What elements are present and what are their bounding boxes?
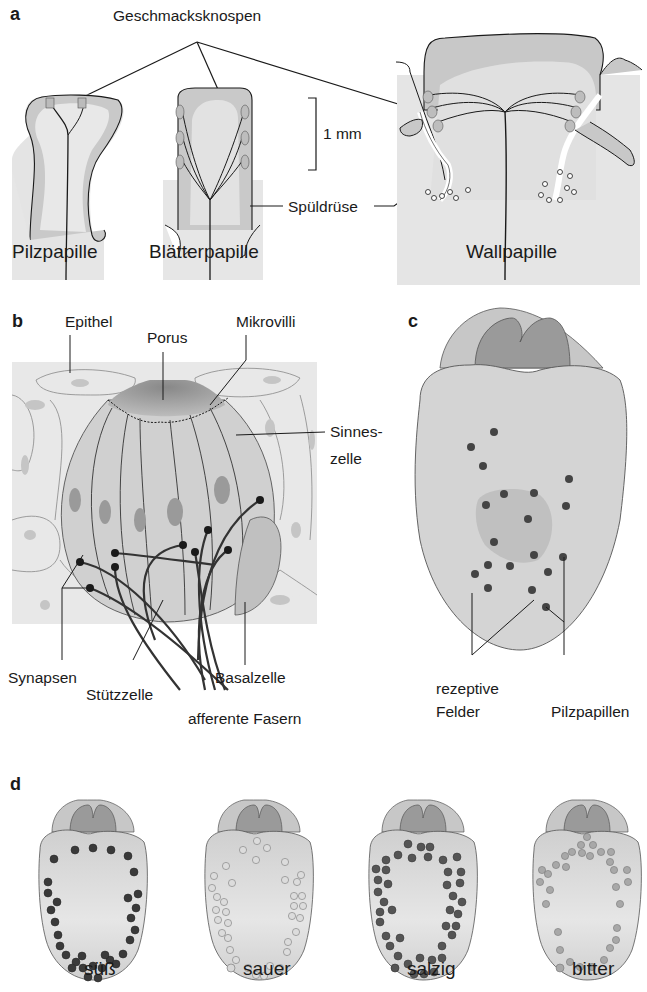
- label-scale: 1 mm: [323, 125, 362, 142]
- panel-d-letter: d: [10, 774, 21, 794]
- legend-dot-icon: [556, 964, 564, 972]
- legend-label-sauer: sauer: [243, 958, 291, 979]
- label-rezeptive: rezeptive: [436, 680, 499, 697]
- label-sinneszelle-2: zelle: [330, 450, 362, 467]
- legend-dot-icon: [391, 964, 399, 972]
- label-pilzpapille: Pilzpapille: [12, 241, 98, 262]
- label-wallpapille: Wallpapille: [466, 241, 557, 262]
- label-epithel: Epithel: [65, 313, 112, 330]
- label-sinneszelle-1: Sinnes-: [330, 423, 383, 440]
- label-afferente-fasern: afferente Fasern: [188, 710, 301, 727]
- panel-d: d: [10, 774, 641, 982]
- label-spueldruese: Spüldrüse: [288, 198, 358, 215]
- label-pilzpapillen: Pilzpapillen: [551, 703, 629, 720]
- panel-c-letter: c: [408, 311, 418, 331]
- label-felder: Felder: [436, 703, 480, 720]
- panel-a: a Geschmacksknospen: [10, 4, 642, 285]
- label-mikrovilli: Mikrovilli: [236, 313, 295, 330]
- legend-label-salzig: salzig: [407, 958, 456, 979]
- tongue-large: [415, 308, 627, 655]
- panel-c: c rezeptive Felder Pilz: [408, 308, 629, 720]
- tongue-salzig: [369, 800, 477, 980]
- label-stuetzzelle: Stützzelle: [86, 686, 153, 703]
- taste-bud: [61, 380, 281, 690]
- panel-a-letter: a: [10, 4, 21, 24]
- scale-bar: [308, 98, 316, 170]
- label-porus: Porus: [147, 329, 188, 346]
- taste-diagram: a Geschmacksknospen: [0, 0, 647, 992]
- legend-dot-icon: [227, 964, 235, 972]
- tongue-sauer: [205, 800, 313, 980]
- legend-label-suess: süß: [84, 958, 116, 979]
- label-geschmacksknospen: Geschmacksknospen: [113, 7, 261, 24]
- panel-b-letter: b: [12, 311, 23, 331]
- legend-dot-icon: [68, 964, 76, 972]
- tongue-bitter: [533, 800, 641, 980]
- legend-label-bitter: bitter: [572, 958, 615, 979]
- panel-b: b Epithel Porus Mikrovilli Sinnes- zelle: [8, 311, 383, 727]
- tongue-suess: [39, 800, 147, 982]
- label-basalzelle: Basalzelle: [215, 669, 286, 686]
- taste-legend: süß sauer salzig bitter: [68, 958, 615, 979]
- label-synapsen: Synapsen: [8, 669, 77, 686]
- label-blaetterpapille: Blätterpapille: [149, 241, 259, 262]
